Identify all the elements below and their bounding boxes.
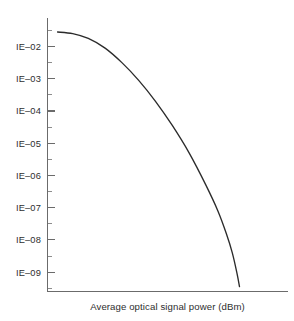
- y-tick-label: IE–02: [16, 42, 41, 52]
- y-tick-label: IE–07: [16, 203, 41, 213]
- y-tick-label: IE–08: [16, 235, 41, 245]
- minor-tick-group: [48, 30, 53, 288]
- axis-lines-group: [48, 18, 288, 292]
- data-series-group: [58, 32, 240, 287]
- ber-curve: [58, 32, 240, 287]
- chart-plot-area: IE–02IE–03IE–04IE–05IE–06IE–07IE–08IE–09…: [0, 0, 294, 321]
- x-axis-title: Average optical signal power (dBm): [90, 301, 245, 312]
- y-tick-label: IE–05: [16, 139, 41, 149]
- y-tick-label: IE–06: [16, 171, 41, 181]
- y-tick-label: IE–09: [16, 268, 41, 278]
- ber-vs-optical-power-chart: IE–02IE–03IE–04IE–05IE–06IE–07IE–08IE–09…: [0, 0, 294, 321]
- y-tick-label-group: IE–02IE–03IE–04IE–05IE–06IE–07IE–08IE–09: [16, 42, 41, 278]
- y-tick-label: IE–04: [16, 106, 41, 116]
- y-tick-label: IE–03: [16, 74, 41, 84]
